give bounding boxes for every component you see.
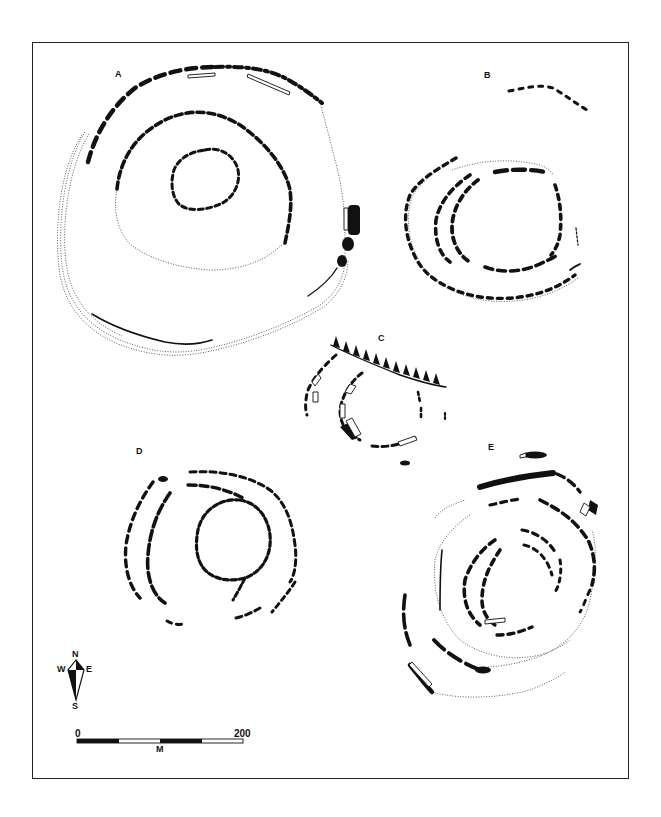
site-label-c: C	[378, 333, 385, 343]
compass-s-label: S	[72, 701, 78, 711]
scale-bar	[77, 739, 243, 743]
scale-start-label: 0	[75, 728, 81, 739]
scale-unit-label: M	[156, 744, 164, 754]
site-label-e: E	[488, 442, 494, 452]
compass-w-label: W	[57, 664, 66, 674]
compass-e-label: E	[86, 664, 92, 674]
site-label-b: B	[484, 70, 491, 80]
site-e-plan	[404, 452, 598, 698]
compass-n-label: N	[72, 649, 79, 659]
site-a-plan	[58, 67, 360, 356]
site-label-a: A	[115, 69, 122, 79]
scale-end-label: 200	[234, 728, 251, 739]
north-arrow-icon	[68, 660, 84, 700]
site-label-d: D	[136, 446, 143, 456]
site-c-plan	[306, 336, 446, 466]
site-d-plan	[126, 472, 296, 625]
site-plan: .stone { fill: #111; } .dash { fill: non…	[0, 0, 661, 817]
site-b-plan	[406, 86, 587, 301]
